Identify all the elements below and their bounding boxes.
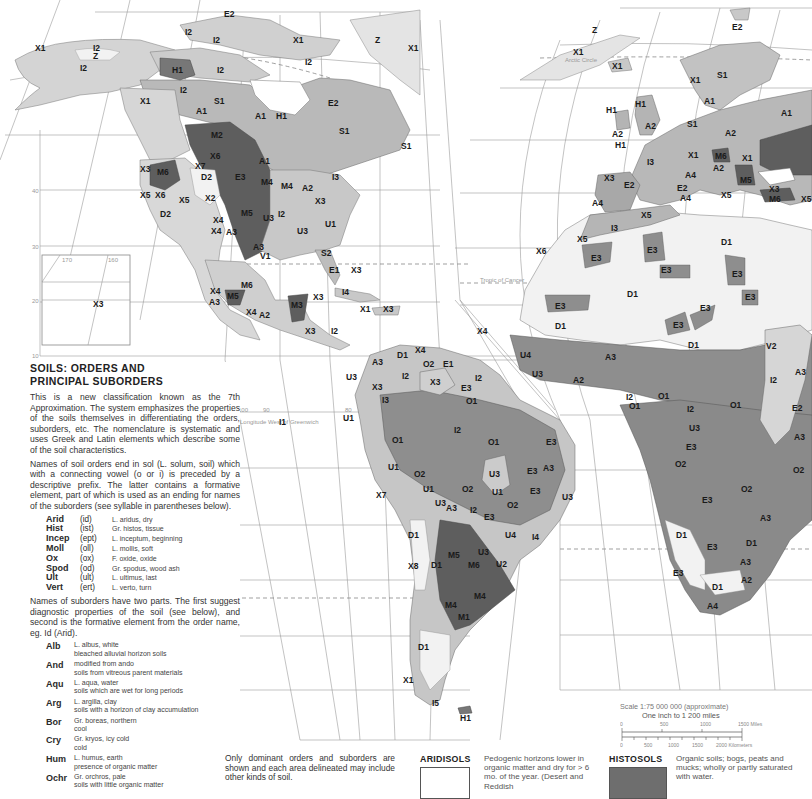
region-code-label: I2 [185,27,192,37]
region-code-label: E3 [745,292,756,302]
suborder-etymology: L. argilla, clay [74,698,240,706]
region-code-label: U3 [562,492,573,502]
svalbard [730,8,750,20]
order-name: Vert [46,583,80,593]
region-code-label: X4 [415,345,426,355]
suborder-row: Andmodified from andosoils from vitreous… [46,660,240,677]
region-code-label: O1 [392,435,404,445]
region-code-label: E3 [527,466,538,476]
region-code-label: M5 [740,175,752,185]
region-code-label: X6 [536,246,547,256]
region-code-label: A2 [713,163,724,173]
region-code-label: I2 [770,375,777,385]
suborder-name: Ochr [46,773,74,790]
region-code-label: D1 [418,642,429,652]
region-code-label: S1 [339,126,350,136]
region-code-label: M5 [448,550,460,560]
region-code-label: A2 [725,128,736,138]
region-code-label: I2 [687,404,694,414]
region-code-label: X7 [195,161,206,171]
region-code-label: A1 [781,108,792,118]
suborder-row: BorGr. boreas, northerncool [46,717,240,734]
region-code-label: X5 [801,194,812,204]
suborder-name: And [46,660,74,677]
region-code-label: D1 [721,237,732,247]
region-code-label: X1 [360,304,371,314]
region-code-label: X3 [769,184,780,194]
orders-paragraph: Names of soil orders end in sol (L. solu… [30,459,240,512]
europe [520,8,812,212]
dominance-note: Only dominant orders and suborders are s… [225,754,395,783]
region-code-label: U1 [343,413,354,423]
region-code-label: I2 [402,371,409,381]
region-code-label: A3 [794,432,805,442]
region-code-label: A3 [226,227,237,237]
region-code-label: O2 [462,484,474,494]
region-code-label: I2 [331,326,338,336]
region-code-label: I1 [279,417,286,427]
suborder-etymology: L. humus, earth [74,754,240,762]
region-code-label: A3 [372,357,383,367]
suborder-name: Alb [46,641,74,658]
region-code-label: X3 [383,304,394,314]
region-code-label: E2 [624,180,635,190]
region-code-label: U3 [346,372,357,382]
svg-text:Arctic Circle: Arctic Circle [565,57,598,63]
region-code-label: X3 [351,265,362,275]
region-code-label: E2 [677,183,688,193]
region-code-label: U3 [489,469,500,479]
suborder-etymology: L. aqua, water [74,679,240,687]
legend-swatch [420,767,470,799]
region-code-label: D1 [688,340,699,350]
region-code-label: Z [375,35,380,45]
region-code-label: X3 [313,292,324,302]
order-etymology: L. aridus, dry [112,515,240,525]
region-code-label: E3 [647,245,658,255]
region-code-label: E3 [700,303,711,313]
region-code-label: X7 [376,490,387,500]
region-code-label: U3 [263,213,274,223]
region-code-label: V1 [260,251,271,261]
region-code-label: M6 [157,167,169,177]
region-code-label: M4 [261,177,273,187]
order-syllable: (oll) [80,544,112,554]
region-code-label: X4 [213,215,224,225]
region-code-label: D1 [431,560,442,570]
region-code-label: H1 [172,65,183,75]
region-code-label: D1 [746,538,757,548]
suborder-row: AlbL. albus, whitebleached alluvial hori… [46,641,240,658]
region-code-label: H1 [615,140,626,150]
region-code-label: M4 [445,600,457,610]
region-code-label: X6 [155,190,166,200]
region-code-label: E3 [591,253,602,263]
region-code-label: S2 [321,248,332,258]
region-code-label: M1 [458,612,470,622]
legend-name: ARIDISOLS [420,754,471,764]
svg-text:2000 Kilometers: 2000 Kilometers [716,742,753,748]
region-code-label: I3 [611,223,618,233]
legend-histosols-description: Organic soils; bogs, peats and mucks; wh… [676,754,806,782]
region-code-label: D2 [160,209,171,219]
region-code-label: E3 [732,269,743,279]
region-code-label: D1 [627,289,638,299]
region-code-label: X3 [372,382,383,392]
region-code-label: M6 [769,194,781,204]
region-code-label: X3 [604,173,615,183]
svg-text:1500 Miles: 1500 Miles [738,721,763,727]
legend-swatch [609,767,667,799]
region-code-label: M6 [715,151,727,161]
region-code-label: E3 [686,442,697,452]
region-code-label: I3 [647,157,654,167]
region-code-label: O1 [488,437,500,447]
region-code-label: Z [592,25,597,35]
region-code-label: E3 [707,542,718,552]
order-syllable: (od) [80,564,112,574]
region-code-label: E3 [661,265,672,275]
region-code-label: A2 [573,375,584,385]
region-code-label: I2 [475,373,482,383]
region-code-label: X4 [246,307,257,317]
suborder-name: Arg [46,698,74,715]
region-code-label: O1 [466,396,478,406]
suborder-meaning: bleached alluvial horizon soils [74,650,240,658]
region-code-label: A3 [740,557,751,567]
